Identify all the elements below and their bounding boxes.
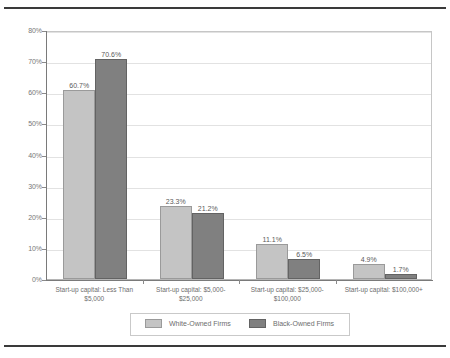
legend-item-black-owned-firms: Black-Owned Firms bbox=[249, 319, 334, 328]
bottom-divider-rule bbox=[4, 345, 446, 347]
plot-area: 60.7%70.6%23.3%21.2%11.1%6.5%4.9%1.7% bbox=[46, 31, 432, 280]
bar-white-owned-firms: 11.1% bbox=[256, 244, 288, 279]
bar-group: 4.9%1.7% bbox=[353, 30, 417, 279]
y-axis-line bbox=[46, 31, 47, 281]
x-axis-tick-mark bbox=[143, 280, 144, 284]
x-axis-category-label: Start-up capital: Less Than$5,000 bbox=[44, 285, 144, 303]
bar-white-owned-firms: 60.7% bbox=[63, 90, 95, 279]
y-axis: 0%10%20%30%40%50%60%70%80% bbox=[0, 0, 42, 358]
x-axis-tick-mark bbox=[336, 280, 337, 284]
bar-black-owned-firms: 1.7% bbox=[385, 274, 417, 279]
y-axis-tick-label: 0% bbox=[6, 276, 42, 283]
bar-value-label: 60.7% bbox=[69, 82, 89, 89]
y-axis-tick-mark bbox=[42, 124, 46, 125]
y-axis-tick-label: 40% bbox=[6, 152, 42, 159]
bar-white-owned-firms: 23.3% bbox=[160, 206, 192, 279]
y-axis-tick-mark bbox=[42, 62, 46, 63]
top-divider-rule bbox=[4, 7, 446, 9]
bar-black-owned-firms: 6.5% bbox=[288, 259, 320, 279]
y-axis-tick-mark bbox=[42, 187, 46, 188]
x-axis-category-label: Start-up capital: $5,000-$25,000 bbox=[141, 285, 241, 303]
x-axis-category-label: Start-up capital: $25,000-$100,000 bbox=[237, 285, 337, 303]
legend-label-white-owned-firms: White-Owned Firms bbox=[169, 320, 231, 327]
y-axis-tick-label: 50% bbox=[6, 120, 42, 127]
bar-group: 11.1%6.5% bbox=[256, 30, 320, 279]
y-axis-tick-label: 20% bbox=[6, 214, 42, 221]
y-axis-tick-mark bbox=[42, 156, 46, 157]
x-axis-category-label: Start-up capital: $100,000+ bbox=[334, 285, 434, 294]
bar-value-label: 1.7% bbox=[393, 266, 409, 273]
bar-value-label: 23.3% bbox=[166, 198, 186, 205]
chart-legend: White-Owned Firms Black-Owned Firms bbox=[130, 313, 350, 336]
y-axis-tick-label: 80% bbox=[6, 27, 42, 34]
legend-label-black-owned-firms: Black-Owned Firms bbox=[273, 320, 334, 327]
bar-value-label: 4.9% bbox=[361, 256, 377, 263]
y-axis-tick-mark bbox=[42, 280, 46, 281]
y-axis-tick-mark bbox=[42, 218, 46, 219]
y-axis-tick-label: 10% bbox=[6, 245, 42, 252]
legend-swatch-icon-black-owned-firms bbox=[249, 319, 266, 328]
x-axis-tick-mark bbox=[239, 280, 240, 284]
y-axis-tick-mark bbox=[42, 93, 46, 94]
y-axis-tick-label: 70% bbox=[6, 58, 42, 65]
bar-black-owned-firms: 21.2% bbox=[192, 213, 224, 279]
bar-value-label: 21.2% bbox=[198, 205, 218, 212]
bar-black-owned-firms: 70.6% bbox=[95, 59, 127, 279]
y-axis-tick-label: 30% bbox=[6, 183, 42, 190]
bar-group: 23.3%21.2% bbox=[160, 30, 224, 279]
bar-value-label: 6.5% bbox=[296, 251, 312, 258]
bar-value-label: 70.6% bbox=[101, 51, 121, 58]
legend-swatch-icon-white-owned-firms bbox=[145, 319, 162, 328]
y-axis-tick-label: 60% bbox=[6, 89, 42, 96]
y-axis-tick-mark bbox=[42, 249, 46, 250]
bar-value-label: 11.1% bbox=[263, 236, 282, 243]
legend-item-white-owned-firms: White-Owned Firms bbox=[145, 319, 231, 328]
bar-group: 60.7%70.6% bbox=[63, 30, 127, 279]
bar-white-owned-firms: 4.9% bbox=[353, 264, 385, 279]
y-axis-tick-mark bbox=[42, 31, 46, 32]
chart-figure: 0%10%20%30%40%50%60%70%80% 60.7%70.6%23.… bbox=[0, 0, 450, 358]
